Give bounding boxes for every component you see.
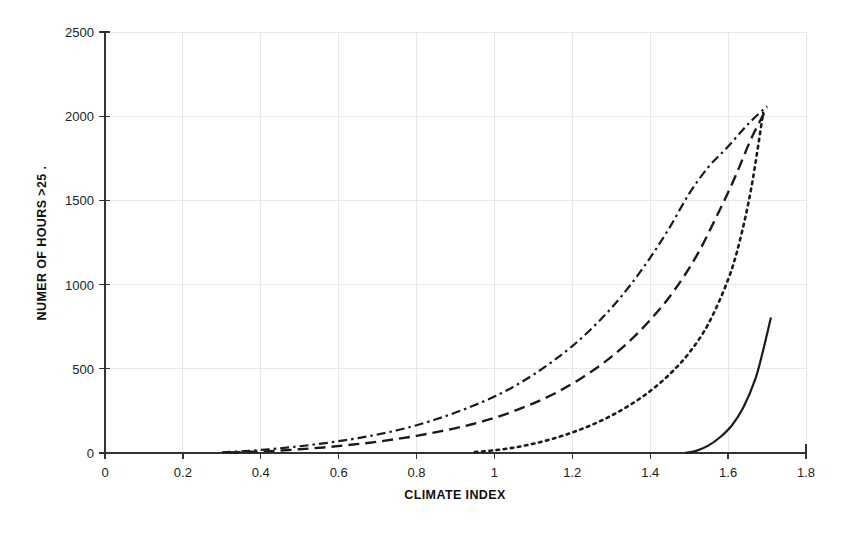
x-tick-label: 1 — [491, 465, 498, 480]
y-axis-title: NUMER OF HOURS >25 . — [35, 166, 49, 321]
x-tick-label: 0.6 — [330, 465, 348, 480]
x-tick-label: 0.4 — [252, 465, 270, 480]
y-tick-label: 500 — [72, 362, 94, 377]
y-tick-group: 05001000150020002500 — [65, 25, 110, 461]
x-tick-group: 00.20.40.60.811.21.41.61.8 — [101, 453, 815, 480]
y-tick-label: 0 — [87, 446, 94, 461]
x-tick-label: 1.2 — [563, 465, 581, 480]
x-tick-label: 1.6 — [719, 465, 737, 480]
gridlines — [105, 32, 806, 453]
series-group — [222, 106, 771, 453]
x-tick-label: 0.8 — [408, 465, 426, 480]
x-tick-label: 1.8 — [797, 465, 815, 480]
y-tick-label: 2500 — [65, 25, 94, 40]
series-line-long-dash-middle — [230, 108, 767, 453]
y-tick-label: 1500 — [65, 193, 94, 208]
y-tick-label: 2000 — [65, 109, 94, 124]
series-line-dotted-lower — [475, 113, 763, 452]
line-chart: 00.20.40.60.811.21.41.61.8 0500100015002… — [0, 0, 863, 537]
x-tick-label: 1.4 — [641, 465, 659, 480]
y-tick-label: 1000 — [65, 278, 94, 293]
x-tick-label: 0 — [101, 465, 108, 480]
chart-container: 00.20.40.60.811.21.41.61.8 0500100015002… — [0, 0, 863, 537]
axis-lines — [105, 32, 806, 453]
x-tick-label: 0.2 — [174, 465, 192, 480]
x-axis-title: CLIMATE INDEX — [404, 488, 506, 502]
